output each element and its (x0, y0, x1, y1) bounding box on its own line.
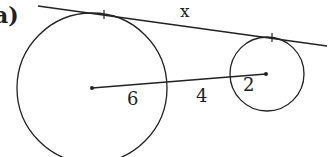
small-radius-label: 2 (243, 76, 254, 94)
center-segment (92, 74, 266, 88)
tangent-length-label: x (180, 3, 190, 20)
gap-length-label: 4 (196, 87, 207, 105)
small-center-dot (264, 72, 268, 76)
large-center-dot (90, 86, 94, 90)
diagram-canvas (0, 0, 333, 157)
large-circle (17, 13, 167, 157)
large-radius-label: 6 (127, 90, 138, 108)
part-label: a) (0, 4, 19, 26)
